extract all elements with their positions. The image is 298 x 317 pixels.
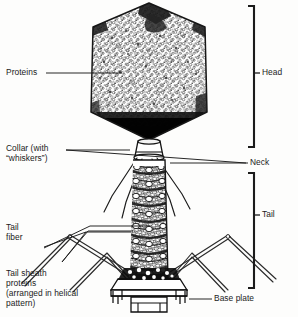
label-proteins: Proteins <box>6 68 37 78</box>
bracket-tail <box>248 173 260 288</box>
label-tail-fiber-line2: fiber <box>6 233 23 243</box>
tail-fiber-right-outer <box>170 235 276 282</box>
collar <box>134 139 164 161</box>
head-capsid <box>85 0 215 145</box>
label-tail: Tail <box>262 210 275 220</box>
label-neck: Neck <box>250 158 269 168</box>
label-head: Head <box>262 68 282 78</box>
bracket-head <box>248 6 260 147</box>
label-collar-line2: “whiskers”) <box>6 154 48 164</box>
tail-sheath <box>126 158 174 284</box>
bacteriophage-figure: Proteins Collar (with “whiskers”) Tail f… <box>0 0 298 317</box>
label-tail-sheath-line4: pattern) <box>6 299 35 309</box>
leader-sheath-elbow <box>62 231 133 262</box>
label-base-plate: Base plate <box>214 294 254 304</box>
base-plate <box>111 268 187 312</box>
